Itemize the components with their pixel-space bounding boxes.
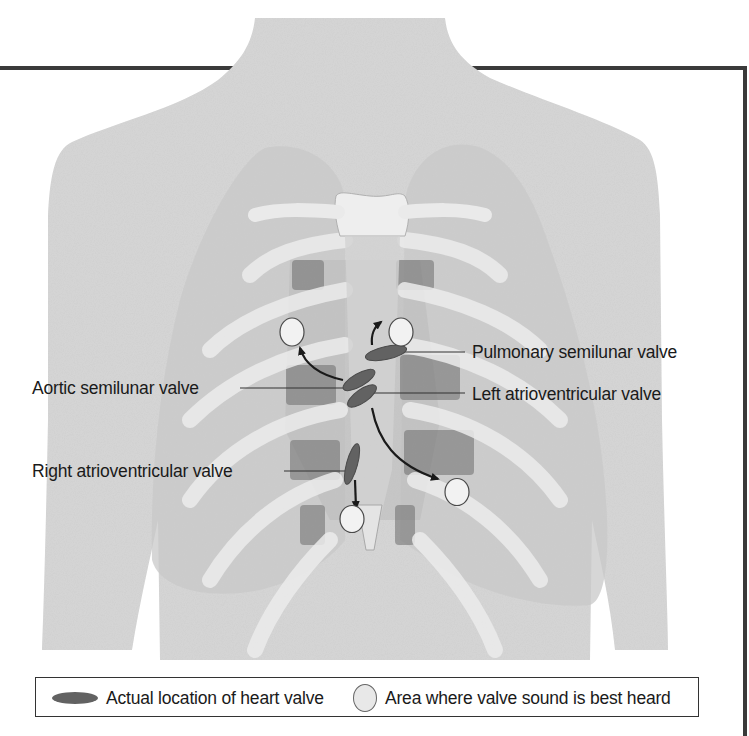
legend: Actual location of heart valve Area wher… (35, 677, 699, 717)
legend-area-icon (353, 684, 377, 712)
pulmonic-area (389, 318, 413, 346)
right-clavicle (255, 210, 338, 215)
tricuspid-area (340, 506, 364, 533)
left-clavicle (405, 210, 485, 215)
label-pulmonary-valve: Pulmonary semilunar valve (472, 344, 677, 362)
legend-area-label: Area where valve sound is best heard (385, 688, 671, 709)
label-right-av-valve: Right atrioventricular valve (32, 463, 233, 481)
torso-illustration (0, 0, 749, 736)
legend-valve-icon (52, 692, 98, 704)
label-left-av-valve: Left atrioventricular valve (472, 386, 661, 404)
legend-valve-label: Actual location of heart valve (106, 688, 324, 709)
aortic-area (280, 318, 304, 346)
manubrium (335, 193, 409, 236)
mitral-area (445, 479, 469, 506)
label-aortic-valve: Aortic semilunar valve (32, 380, 199, 398)
